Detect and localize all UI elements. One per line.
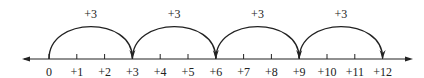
tick-label: +8 [265,66,278,78]
tick-label: +7 [237,66,250,78]
tick-label: +12 [373,66,392,78]
tick-label: +2 [98,66,111,78]
jump-label: +3 [168,8,181,20]
tick-label: +3 [126,66,139,78]
tick-label: +5 [182,66,195,78]
jump-arc [216,27,299,59]
jump-label: +3 [84,8,97,20]
arrow-left-icon [22,57,30,62]
arrow-right-icon [405,57,413,62]
number-line-diagram: 0+1+2+3+4+5+6+7+8+9+10+11+12+3+3+3+3 [0,0,424,78]
jump-arcs [49,27,386,59]
tick-label: +1 [70,66,83,78]
tick-label: +9 [293,66,306,78]
tick-label: +10 [318,66,337,78]
tick-label: +11 [346,66,364,78]
tick-label: +6 [209,66,222,78]
jump-label: +3 [335,8,348,20]
tick-label: 0 [46,66,52,78]
jump-label: +3 [251,8,264,20]
jump-arc [132,27,215,59]
jump-arc [299,27,382,59]
tick-label: +4 [154,66,167,78]
jump-arc [49,27,132,59]
